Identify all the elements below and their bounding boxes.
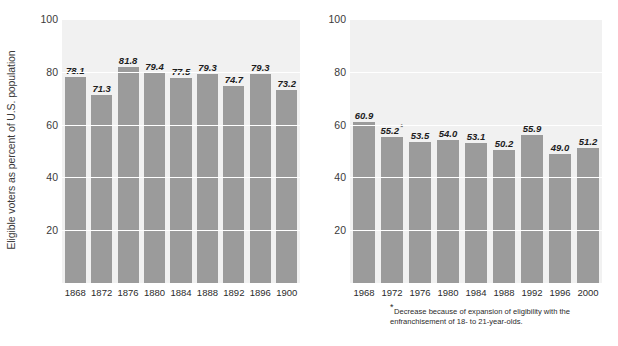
bar-slot: 71.3 [88, 19, 114, 283]
bar-slot: 49.0 [546, 19, 574, 283]
y-tick-label: 40 [312, 172, 346, 182]
gridline [350, 125, 602, 126]
bar-series-right: 60.955.2*53.554.053.150.255.949.051.2 [350, 19, 602, 283]
plot-area-left: 78.171.381.879.477.579.374.779.373.2 [62, 19, 300, 283]
bar-value-label: 49.0 [551, 143, 570, 153]
y-tick-label: 20 [312, 225, 346, 235]
bar-value-label: 54.0 [439, 129, 458, 139]
bar [465, 143, 487, 283]
bar-value-label: 53.1 [467, 132, 486, 142]
bar-slot: 55.9 [518, 19, 546, 283]
bar [170, 78, 191, 283]
x-tick-label: 1976 [406, 287, 434, 299]
bar [276, 90, 297, 283]
bar-slot: 77.5 [168, 19, 194, 283]
x-tick-label: 1880 [141, 287, 167, 299]
footnote-text: Decrease because of expansion of eligibi… [390, 307, 570, 326]
gridline [350, 177, 602, 178]
x-tick-label: 1872 [88, 287, 114, 299]
bar [118, 67, 139, 283]
x-tick-label: 1888 [194, 287, 220, 299]
bar-slot: 50.2 [490, 19, 518, 283]
y-tick-label: 80 [312, 67, 346, 77]
bar [521, 135, 543, 283]
bar [353, 122, 375, 283]
bar-series-left: 78.171.381.879.477.579.374.779.373.2 [62, 19, 300, 283]
gridline [62, 125, 300, 126]
plot-area-right: 60.955.2*53.554.053.150.255.949.051.2 [350, 19, 602, 283]
y-tick-label: 60 [312, 120, 346, 130]
bar-slot: 53.5 [406, 19, 434, 283]
bar [577, 148, 599, 283]
x-axis-ticks-right-wrap: 196819721976198019841988199219962000 [350, 287, 602, 301]
x-tick-label: 1876 [115, 287, 141, 299]
y-tick-label: 40 [24, 172, 58, 182]
x-tick-label: 1992 [518, 287, 546, 299]
x-tick-label: 1996 [546, 287, 574, 299]
x-tick-label: 1972 [378, 287, 406, 299]
bar-value-label: 74.7 [225, 75, 244, 85]
bar-value-label: 55.9 [523, 124, 542, 134]
x-tick-label: 1892 [221, 287, 247, 299]
bar [65, 77, 86, 283]
chart-panel-left: Eligible voters as percent of U.S. popul… [0, 0, 308, 346]
bar-slot: 81.8 [115, 19, 141, 283]
bar-slot: 54.0 [434, 19, 462, 283]
bar [91, 95, 112, 283]
bar [223, 86, 244, 283]
x-tick-label: 1900 [274, 287, 300, 299]
bar-slot: 78.1 [62, 19, 88, 283]
bar [381, 137, 403, 283]
bar [549, 154, 571, 283]
bar-slot: 51.2 [574, 19, 602, 283]
y-tick-label: 100 [312, 14, 346, 24]
bar-slot: 55.2* [378, 19, 406, 283]
gridline [62, 230, 300, 231]
x-tick-label: 1984 [462, 287, 490, 299]
x-tick-label: 1980 [434, 287, 462, 299]
bar-value-label: 73.2 [278, 79, 297, 89]
x-tick-label: 1884 [168, 287, 194, 299]
bar-value-label: 53.5 [411, 131, 430, 141]
bar-value-label: 50.2 [495, 139, 514, 149]
bar [437, 140, 459, 283]
gridline [350, 230, 602, 231]
x-tick-label: 2000 [574, 287, 602, 299]
bar [409, 142, 431, 283]
gridline [350, 72, 602, 73]
y-tick-label: 20 [24, 225, 58, 235]
gridline [62, 72, 300, 73]
bar-slot: 73.2 [274, 19, 300, 283]
bar-value-label: 81.8 [119, 56, 138, 66]
bar-value-label: 71.3 [92, 84, 111, 94]
y-tick-label: 100 [24, 14, 58, 24]
gridline [62, 19, 300, 20]
y-tick-label: 80 [24, 67, 58, 77]
gridline [62, 177, 300, 178]
bar-value-label: 60.9 [355, 111, 374, 121]
footnote-annotation: *Decrease because of expansion of eligib… [390, 307, 612, 326]
bar-slot: 53.1 [462, 19, 490, 283]
x-tick-label: 1988 [490, 287, 518, 299]
gridline [350, 19, 602, 20]
y-tick-label: 60 [24, 120, 58, 130]
x-axis-ticks-left: 186818721876188018841888189218961900 [62, 287, 300, 301]
x-tick-label: 1968 [350, 287, 378, 299]
bar-slot: 60.9 [350, 19, 378, 283]
bar-slot: 79.3 [194, 19, 220, 283]
bar [493, 150, 515, 283]
bar-slot: 79.3 [247, 19, 273, 283]
bar-slot: 79.4 [141, 19, 167, 283]
bar-slot: 74.7 [221, 19, 247, 283]
chart-figure: Eligible voters as percent of U.S. popul… [0, 0, 618, 346]
x-tick-label: 1868 [62, 287, 88, 299]
x-tick-label: 1896 [247, 287, 273, 299]
bar-value-label: 51.2 [579, 137, 598, 147]
y-axis-title: Eligible voters as percent of U.S. popul… [4, 20, 18, 280]
